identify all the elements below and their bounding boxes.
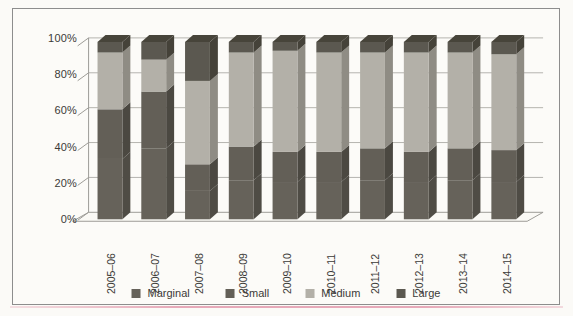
legend-item-small: Small — [226, 287, 270, 299]
legend-item-marginal: Marginal — [132, 287, 190, 299]
legend-label: Small — [242, 287, 270, 299]
legend-label: Medium — [321, 287, 360, 299]
chart-legend: Marginal Small Medium Large — [132, 287, 441, 299]
scanned-chart-page: { "figure": { "frame_border_color": "#8d… — [0, 0, 573, 316]
legend-swatch-marginal — [132, 289, 141, 298]
chart-figure: 100% 80% 60% 40% 20% 0% 2005–06 2006–07 … — [12, 8, 560, 305]
x-axis-label: 2006–07 — [148, 230, 162, 294]
x-axis-label: 2009–10 — [280, 230, 294, 294]
x-axis-label: 2014–15 — [500, 230, 514, 294]
legend-swatch-medium — [305, 289, 314, 298]
x-axis-label: 2013–14 — [456, 230, 470, 294]
x-axis-label: 2005–06 — [104, 230, 118, 294]
y-axis-tick-label: 20% — [15, 177, 77, 189]
x-axis-label: 2010–11 — [324, 230, 338, 294]
y-axis-tick-label: 60% — [15, 104, 77, 116]
y-axis-tick-label: 0% — [15, 213, 77, 225]
legend-label: Marginal — [148, 287, 190, 299]
y-axis-tick-label: 80% — [15, 68, 77, 80]
legend-swatch-small — [226, 289, 235, 298]
x-axis-label: 2007–08 — [192, 230, 206, 294]
x-axis-label: 2011–12 — [368, 230, 382, 294]
y-axis-tick-label: 40% — [15, 141, 77, 153]
x-axis-label: 2012–13 — [412, 230, 426, 294]
legend-item-large: Large — [396, 287, 440, 299]
legend-label: Large — [412, 287, 440, 299]
scan-pink-line — [10, 306, 563, 308]
y-axis-tick-label: 100% — [15, 32, 77, 44]
legend-swatch-large — [396, 289, 405, 298]
x-axis-label: 2008–09 — [236, 230, 250, 294]
legend-item-medium: Medium — [305, 287, 360, 299]
